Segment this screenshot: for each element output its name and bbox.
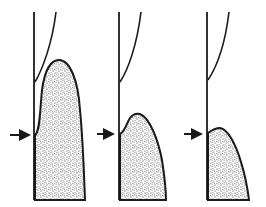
curve-line — [208, 12, 229, 80]
stippled-region — [120, 114, 166, 200]
curve-line — [120, 12, 141, 82]
diagram-canvas — [0, 0, 266, 207]
panel-1 — [10, 12, 85, 200]
stippled-region — [208, 128, 249, 200]
panel-3 — [184, 12, 249, 200]
panel-2 — [97, 12, 166, 200]
stippled-region — [35, 60, 85, 200]
